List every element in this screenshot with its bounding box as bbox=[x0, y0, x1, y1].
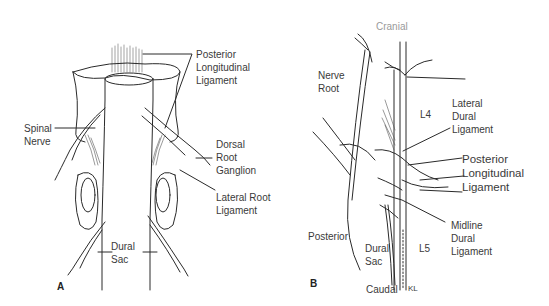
label-posterior-longitudinal-ligament-b: Posterior Longitudinal Ligament bbox=[462, 152, 524, 194]
label-caudal: Caudal bbox=[366, 283, 398, 296]
panel-a-drawing bbox=[55, 44, 215, 290]
artist-signature: KL bbox=[408, 282, 418, 295]
label-l5: L5 bbox=[419, 242, 430, 255]
panel-letter-b: B bbox=[310, 278, 317, 289]
label-posterior-longitudinal-ligament-a: Posterior Longitudinal Ligament bbox=[196, 48, 250, 87]
label-cranial: Cranial bbox=[376, 20, 408, 33]
label-lateral-dural-ligament: Lateral Dural Ligament bbox=[452, 97, 493, 136]
label-midline-dural-ligament: Midline Dural Ligament bbox=[451, 219, 492, 258]
panel-letter-a: A bbox=[57, 281, 64, 292]
label-nerve-root: Nerve Root bbox=[318, 69, 345, 95]
label-spinal-nerve: Spinal Nerve bbox=[24, 122, 52, 148]
label-lateral-root-ligament: Lateral Root Ligament bbox=[216, 191, 270, 217]
label-dorsal-root-ganglion: Dorsal Root Ganglion bbox=[216, 138, 256, 177]
label-posterior: Posterior bbox=[308, 230, 348, 243]
label-dural-sac-b: Dural Sac bbox=[365, 242, 389, 268]
label-l4: L4 bbox=[420, 108, 431, 121]
label-dural-sac-a: Dural Sac bbox=[111, 240, 135, 266]
